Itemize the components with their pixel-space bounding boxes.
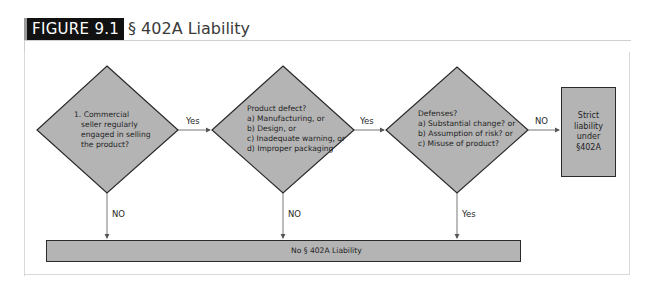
strict-liability-box: Strict liability under §402A — [561, 87, 616, 177]
strict-line: Strict — [574, 111, 603, 122]
decision-3-line: Defenses? — [418, 109, 515, 119]
edge-label-d3-strict: NO — [535, 116, 548, 126]
decision-3-line: b) Assumption of risk? or — [418, 129, 515, 139]
decision-1-line: seller regularly — [74, 120, 151, 130]
decision-1-text: 1. Commercial seller regularly engaged i… — [74, 110, 151, 150]
strict-line: liability — [574, 122, 603, 133]
decision-2-line: c) Inadequate warning, or — [247, 134, 345, 144]
strict-line: under — [574, 132, 603, 143]
decision-2-text: Product defect? a) Manufacturing, or b) … — [247, 104, 345, 154]
decision-2-line: Product defect? — [247, 104, 345, 114]
decision-3-line: c) Misuse of product? — [418, 139, 515, 149]
edge-label-d3-down: Yes — [462, 209, 476, 219]
edge-label-d2-down: NO — [288, 209, 301, 219]
edge-label-d2-d3: Yes — [360, 116, 374, 126]
no-liability-text: No § 402A Liability — [291, 246, 362, 255]
decision-1-line: the product? — [74, 140, 151, 150]
decision-2-line: b) Design, or — [247, 124, 345, 134]
decision-3-text: Defenses? a) Substantial change? or b) A… — [418, 109, 515, 149]
decision-2-line: a) Manufacturing, or — [247, 114, 345, 124]
edge-label-d1-down: NO — [112, 209, 125, 219]
decision-1-line: 1. Commercial — [74, 110, 151, 120]
decision-3-line: a) Substantial change? or — [418, 119, 515, 129]
no-liability-bar: No § 402A Liability — [46, 240, 521, 262]
decision-1-line: engaged in selling — [74, 130, 151, 140]
decision-2-line: d) Improper packaging — [247, 144, 345, 154]
edge-label-d1-d2: Yes — [186, 116, 200, 126]
strict-line: §402A — [574, 143, 603, 154]
